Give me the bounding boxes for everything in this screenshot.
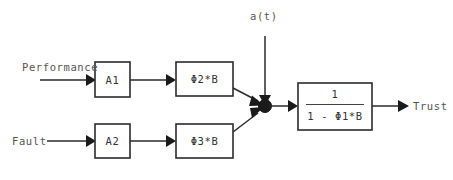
block-a1-label: A1 xyxy=(106,74,120,86)
feedback-numerator: 1 xyxy=(332,88,339,100)
connector-feedback-to-trust xyxy=(372,100,409,112)
connector-phi3b-to-junction xyxy=(233,107,264,132)
block-feedback-transfer[interactable]: 1 1 - Φ1*B xyxy=(298,83,372,130)
block-a2[interactable]: A2 xyxy=(95,124,130,158)
feedback-denominator: 1 - Φ1*B xyxy=(307,110,362,122)
connector-at-to-junction xyxy=(259,36,271,106)
output-label-trust: Trust xyxy=(413,100,448,112)
block-diagram-canvas: A1 Φ2*B A2 Φ3*B 1 1 - Φ1*B Performance F… xyxy=(0,0,453,180)
block-a2-label: A2 xyxy=(106,135,120,147)
connector-fault-to-a2 xyxy=(47,135,96,147)
block-phi3b-label: Φ3*B xyxy=(191,135,219,147)
connector-a1-to-phi2b xyxy=(130,74,176,86)
block-phi2b[interactable]: Φ2*B xyxy=(176,62,233,96)
input-label-fault: Fault xyxy=(12,135,47,147)
connector-performance-to-a1 xyxy=(40,74,96,86)
connector-a2-to-phi3b xyxy=(130,135,176,147)
connector-junction-to-feedback xyxy=(269,100,298,112)
diagram-svg: A1 Φ2*B A2 Φ3*B 1 1 - Φ1*B Performance F… xyxy=(0,0,453,180)
block-phi2b-label: Φ2*B xyxy=(191,73,219,85)
input-label-performance: Performance xyxy=(22,61,98,73)
block-phi3b[interactable]: Φ3*B xyxy=(176,124,233,158)
input-label-at: a(t) xyxy=(250,10,278,22)
block-a1[interactable]: A1 xyxy=(95,62,130,97)
